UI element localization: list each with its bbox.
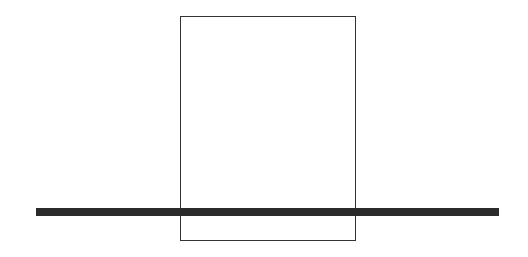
horizontal-bar — [36, 208, 499, 216]
